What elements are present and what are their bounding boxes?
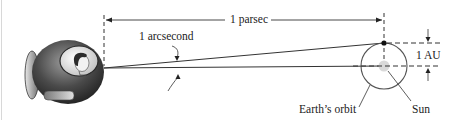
arcsecond-arrow-top-icon bbox=[175, 56, 180, 61]
earth-orbit-label: Earth’s orbit bbox=[299, 104, 356, 116]
orbit-leader-line bbox=[359, 85, 370, 107]
parsec-label: 1 parsec bbox=[227, 14, 271, 26]
line-to-earth bbox=[104, 43, 384, 68]
arcsecond-label: 1 arcsecond bbox=[139, 31, 194, 43]
parsec-diagram: 1 parsec 1 arcsecond 1 AU Earth’s orbit … bbox=[0, 0, 460, 122]
sun-leader-line bbox=[388, 71, 411, 101]
arrow-left-icon bbox=[106, 18, 112, 23]
arcsecond-arrow-bottom-icon bbox=[176, 74, 181, 79]
au-label: 1 AU bbox=[416, 50, 441, 62]
sun-label: Sun bbox=[412, 104, 430, 116]
au-arrow-down-icon bbox=[426, 37, 431, 42]
line-to-sun bbox=[104, 66, 384, 68]
earth-icon bbox=[381, 40, 386, 45]
arrow-right-icon bbox=[376, 18, 382, 23]
spaceship-icon bbox=[25, 40, 104, 104]
au-arrow-up-icon bbox=[426, 68, 431, 73]
